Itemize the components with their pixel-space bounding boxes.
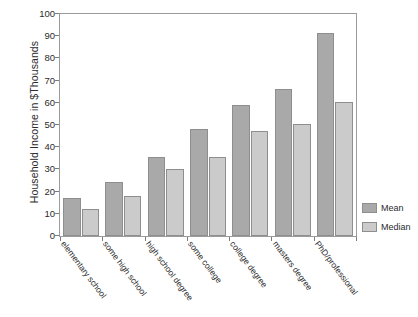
- bar-mean-3: [148, 157, 166, 236]
- bars-container: [60, 14, 356, 236]
- y-tick-label: 20: [44, 185, 55, 196]
- y-tick-label: 50: [44, 119, 55, 130]
- bar-median-1: [82, 209, 100, 236]
- bar-mean-5: [232, 105, 250, 236]
- y-tick-label: 100: [39, 8, 55, 19]
- bar-median-6: [293, 124, 311, 236]
- x-tick-label: elementary school: [59, 239, 109, 300]
- y-tick-label: 40: [44, 141, 55, 152]
- y-axis: 0102030405060708090100: [0, 13, 59, 237]
- x-tick-label: college degree: [228, 239, 270, 290]
- plot-area: [59, 13, 357, 237]
- legend-label: Median: [381, 222, 411, 232]
- y-tick-label: 60: [44, 96, 55, 107]
- bar-mean-4: [190, 129, 208, 236]
- y-tick-label: 90: [44, 30, 55, 41]
- y-tick-label: 80: [44, 52, 55, 63]
- y-tick-label: 70: [44, 74, 55, 85]
- y-tick-label: 30: [44, 163, 55, 174]
- x-tick-label: masters degree: [271, 239, 315, 292]
- x-tick-label: PhD/professional: [313, 239, 360, 297]
- legend-item-median: Median: [362, 222, 418, 232]
- legend-label: Mean: [381, 203, 404, 213]
- y-tick-label: 10: [44, 207, 55, 218]
- legend-item-mean: Mean: [362, 203, 418, 213]
- bar-mean-2: [105, 182, 123, 236]
- legend-swatch-median: [362, 222, 377, 232]
- bar-median-4: [209, 157, 227, 236]
- bar-mean-6: [275, 89, 293, 236]
- bar-mean-7: [317, 33, 335, 236]
- x-tick-label: some high school: [101, 239, 149, 298]
- bar-median-3: [166, 169, 184, 236]
- bar-median-7: [335, 102, 353, 236]
- x-tick-label: some college: [186, 239, 224, 285]
- x-axis-labels: elementary schoolsome high schoolhigh sc…: [0, 239, 418, 317]
- bar-mean-1: [63, 198, 81, 236]
- chart-legend: MeanMedian: [362, 203, 418, 241]
- bar-median-2: [124, 196, 142, 236]
- bar-median-5: [251, 131, 269, 236]
- legend-swatch-mean: [362, 203, 377, 213]
- x-tick-label: high school degree: [144, 239, 195, 302]
- bar-chart: Household Income in $Thousands 010203040…: [0, 0, 418, 317]
